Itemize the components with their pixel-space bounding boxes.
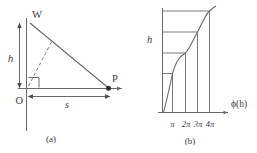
- panel-b-label-h: h: [147, 34, 152, 45]
- panel-b-group: h ϕ(h) π 2π 3π 4π (b): [147, 6, 247, 146]
- panel-b-x-axis-arrow-icon: [224, 111, 229, 115]
- panel-b-caption: (b): [185, 136, 196, 146]
- panel-a-label-o: O: [16, 95, 24, 106]
- panel-b-phi-curve: [164, 6, 217, 112]
- panel-a-hypotenuse: [30, 23, 109, 88]
- panel-a-s-arrow-right-icon: [105, 94, 111, 98]
- panel-b-label-phi: ϕ(h): [231, 99, 247, 110]
- panel-a-label-h: h: [8, 53, 13, 64]
- panel-b-tick-pi: π: [170, 119, 175, 129]
- panel-a-horizontal-axis-arrow-icon: [117, 87, 122, 91]
- panel-b-tick-4pi: 4π: [206, 119, 215, 129]
- figure-svg: W h O P s (a): [0, 0, 257, 153]
- figure-container: W h O P s (a): [0, 0, 257, 153]
- panel-a-group: W h O P s (a): [8, 9, 122, 144]
- filled-point-marker-icon: [106, 86, 111, 91]
- panel-a-h-arrow-up-icon: [17, 23, 21, 29]
- panel-a-h-arrow-down-icon: [17, 83, 21, 89]
- right-angle-marker-icon: [29, 78, 40, 88]
- panel-a-caption: (a): [46, 134, 56, 144]
- panel-a-label-w: W: [32, 9, 42, 20]
- panel-a-label-s: s: [65, 99, 69, 110]
- panel-b-tick-3pi: 3π: [193, 119, 203, 129]
- panel-a-s-arrow-left-icon: [28, 94, 34, 98]
- panel-b-tick-2pi: 2π: [182, 119, 191, 129]
- dashed-ray-icon: [29, 41, 53, 86]
- panel-a-label-p: P: [112, 73, 118, 84]
